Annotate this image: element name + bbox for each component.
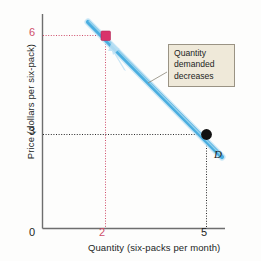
x-tick-label-0: 0: [29, 226, 35, 238]
annotation-line-3: decreases: [174, 71, 230, 82]
y-tick-label-3: 3: [29, 125, 35, 137]
annotation-leader-line: [148, 72, 167, 83]
x-axis-label: Quantity (six-packs per month): [88, 242, 220, 253]
demand-curve-figure: Price (dollars per six-pack) Quantity (s…: [0, 0, 261, 261]
y-tick-label-6: 6: [29, 26, 35, 38]
chart-canvas: [0, 0, 261, 261]
annotation-line-1: Quantity: [174, 48, 230, 59]
initial-point-marker: [101, 31, 111, 41]
x-tick-label-2: 2: [99, 226, 105, 238]
y-axis-label: Price (dollars per six-pack): [25, 22, 36, 182]
demand-curve-label: D: [214, 148, 222, 160]
new-point-marker: [201, 129, 212, 140]
annotation-callout: Quantity demanded decreases: [168, 44, 235, 87]
x-tick-label-5: 5: [201, 226, 207, 238]
annotation-line-2: demanded: [174, 59, 230, 70]
